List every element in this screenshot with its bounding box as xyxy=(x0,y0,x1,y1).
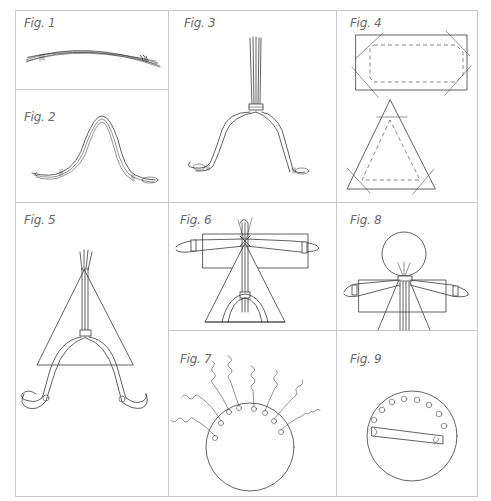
fig8-doll-assembled xyxy=(344,232,468,330)
fig7-label: Fig. 7 xyxy=(180,352,211,366)
fig2-arch xyxy=(32,116,158,183)
fig4-fabric-templates xyxy=(347,31,471,194)
fig6-label: Fig. 6 xyxy=(180,213,211,227)
fig5-body-fabric xyxy=(22,250,148,409)
instruction-sheet: Fig. 1 Fig. 2 Fig. 3 Fig. 4 Fig. 5 Fig. … xyxy=(0,0,491,501)
fig8-label: Fig. 8 xyxy=(350,213,381,227)
fig1-label: Fig. 1 xyxy=(24,16,55,30)
figure-drawings xyxy=(0,0,491,501)
fig5-label: Fig. 5 xyxy=(24,213,55,227)
fig7-head-with-hair xyxy=(171,356,320,491)
fig4-label: Fig. 4 xyxy=(350,16,381,30)
fig3-leg-armature xyxy=(188,37,309,174)
fig3-label: Fig. 3 xyxy=(184,16,215,30)
fig1-wire-bundle xyxy=(26,50,160,67)
fig2-label: Fig. 2 xyxy=(24,110,55,124)
fig6-arms xyxy=(176,218,319,322)
fig9-label: Fig. 9 xyxy=(350,352,381,366)
fig9-disk xyxy=(367,391,457,481)
